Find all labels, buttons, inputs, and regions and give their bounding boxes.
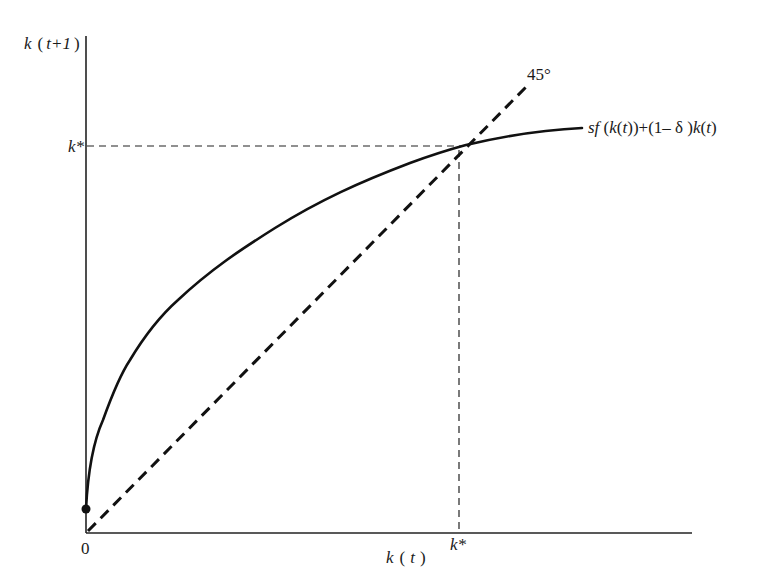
forty-five-degree-line (88, 84, 529, 531)
accumulation-curve (86, 128, 582, 509)
steady-state-x-label: k* (450, 535, 467, 554)
intercept-dot (82, 505, 91, 514)
y-axis-label: k(t+1) (24, 34, 80, 53)
steady-state-y-label: k* (68, 137, 85, 156)
solow-diagram: k(t+1) k* 0 k* k(t) 45° sf (k(t))+(1– δ … (0, 0, 778, 586)
forty-five-degree-label: 45° (527, 65, 551, 84)
origin-label: 0 (81, 539, 90, 558)
x-axis-label: k(t) (386, 548, 426, 567)
curve-label: sf (k(t))+(1– δ )k(t) (588, 118, 717, 137)
